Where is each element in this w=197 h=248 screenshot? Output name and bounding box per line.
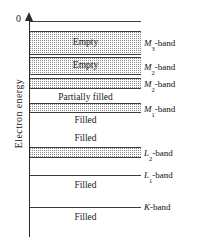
- band-edge-l2-top: [30, 147, 141, 148]
- band-edge-m2-top: [30, 57, 141, 58]
- band-label-m2-subscript: 2: [152, 69, 155, 76]
- band-edge-m1-bottom: [30, 112, 141, 113]
- band-label-l1-subscript: 1: [149, 177, 152, 184]
- band-fill-label-m3: Empty: [30, 37, 141, 48]
- band-edge-k: [30, 207, 141, 208]
- band-label-m2-suffix: -band: [155, 62, 176, 72]
- band-label-m2: M2-band: [144, 62, 175, 72]
- band-label-k-suffix: -band: [150, 202, 171, 212]
- band-label-m2-lower-subscript: 2: [152, 86, 155, 93]
- band-edge-top: [30, 21, 141, 22]
- band-label-l1: L1-band: [144, 170, 173, 180]
- energy-band-diagram: 0 Electron energy Empty Empty Partially …: [0, 0, 197, 248]
- band-fill-label-below-m1: Filled: [30, 115, 141, 126]
- band-fill-label-l1: Filled: [30, 180, 141, 191]
- band-edge-m2lower-bottom: [30, 88, 141, 89]
- band-region-l2: [30, 148, 141, 157]
- band-edge-m2-bottom: [30, 74, 141, 75]
- band-label-m3: M3-band: [144, 38, 175, 48]
- band-edge-m3-top: [30, 31, 141, 32]
- band-label-m3-subscript: 3: [152, 45, 155, 52]
- band-label-k: K-band: [144, 202, 171, 212]
- band-label-m1: M1-band: [144, 104, 175, 114]
- band-edge-m3-bottom: [30, 54, 141, 55]
- band-edge-m1-top: [30, 103, 141, 104]
- band-label-l2: L2-band: [144, 148, 173, 158]
- band-region-m1: [30, 104, 141, 112]
- band-label-m2-lower: M2-band: [144, 79, 175, 89]
- axis-title-electron-energy: Electron energy: [13, 59, 24, 169]
- band-fill-label-k: Filled: [30, 212, 141, 223]
- band-label-m2-lower-symbol: M: [144, 79, 152, 89]
- band-label-l2-suffix: -band: [152, 148, 173, 158]
- band-label-m1-symbol: M: [144, 104, 152, 114]
- band-label-l2-subscript: 2: [149, 155, 152, 162]
- axis-zero-tick-label: 0: [16, 14, 21, 24]
- band-label-m1-subscript: 1: [152, 111, 155, 118]
- band-label-l1-suffix: -band: [152, 170, 173, 180]
- band-label-m3-suffix: -band: [155, 38, 176, 48]
- band-label-m3-symbol: M: [144, 38, 152, 48]
- band-edge-l2-bottom: [30, 157, 141, 158]
- band-label-m2-lower-suffix: -band: [155, 79, 176, 89]
- band-label-m2-symbol: M: [144, 62, 152, 72]
- band-edge-l1: [30, 175, 141, 176]
- band-fill-label-m2: Empty: [30, 60, 141, 71]
- band-fill-label-m1: Partially filled: [30, 92, 141, 103]
- band-edge-m2lower-top: [30, 78, 141, 79]
- band-label-m1-suffix: -band: [155, 104, 176, 114]
- band-region-m2-lower: [30, 79, 141, 88]
- band-fill-label-l2: Filled: [30, 133, 141, 144]
